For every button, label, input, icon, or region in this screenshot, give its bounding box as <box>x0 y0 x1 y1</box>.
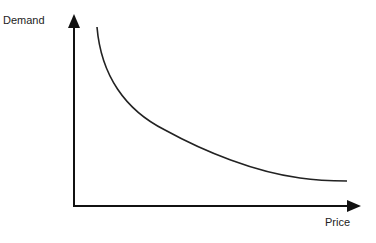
demand-curve <box>97 27 347 181</box>
y-axis-label: Demand <box>3 14 45 26</box>
chart-canvas <box>0 0 376 243</box>
x-axis-arrow-icon <box>347 200 361 212</box>
y-axis-arrow-icon <box>68 14 80 28</box>
x-axis-label: Price <box>325 216 350 228</box>
